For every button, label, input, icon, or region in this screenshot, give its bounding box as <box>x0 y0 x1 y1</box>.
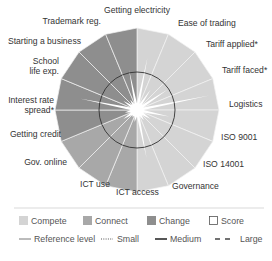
label-ease-of-trading: Ease of trading <box>178 18 236 28</box>
legend-small-label: Small <box>117 234 139 244</box>
legend-lines: Reference level Small Medium Large <box>19 234 263 244</box>
label-starting-business: Starting a business <box>8 36 81 46</box>
label-interest-rate-1: Interest rate <box>8 95 54 105</box>
label-governance: Governance <box>172 181 219 191</box>
legend-connect-label: Connect <box>95 216 128 226</box>
label-ict-access: ICT access <box>116 187 159 197</box>
label-interest-rate-2: spread* <box>24 105 54 115</box>
label-trademark: Trademark reg. <box>43 16 101 26</box>
label-tariff-applied: Tariff applied* <box>206 39 259 49</box>
label-tariff-faced: Tariff faced* <box>222 65 268 75</box>
legend-reference-label: Reference level <box>34 234 95 244</box>
label-getting-credit: Getting credit <box>10 129 62 139</box>
label-gov-online: Gov. online <box>24 157 67 167</box>
label-school-2: life exp. <box>29 66 59 76</box>
legend-connect-swatch <box>83 216 92 225</box>
label-logistics: Logistics <box>229 99 262 109</box>
polar-chart: Getting electricity Ease of trading Tari… <box>0 0 272 261</box>
legend-medium-label: Medium <box>170 234 201 244</box>
legend-change-swatch <box>147 216 156 225</box>
label-ict-use: ICT use <box>80 179 110 189</box>
legend-score-swatch <box>210 217 218 225</box>
legend-change-label: Change <box>159 216 190 226</box>
label-getting-electricity: Getting electricity <box>104 5 171 15</box>
legend-compete-label: Compete <box>31 216 67 226</box>
legend-compete-swatch <box>19 216 28 225</box>
label-iso14001: ISO 14001 <box>203 159 244 169</box>
label-school-1: School <box>33 56 59 66</box>
label-iso9001: ISO 9001 <box>221 132 258 142</box>
legend-score-label: Score <box>221 216 244 226</box>
legend-large-label: Large <box>240 234 263 244</box>
legend-swatches: Compete Connect Change Score <box>19 216 244 226</box>
